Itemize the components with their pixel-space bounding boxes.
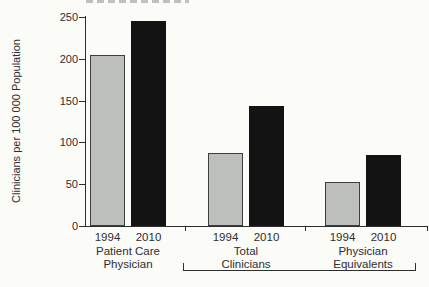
x-axis-line — [85, 226, 428, 227]
x-axis-separator-tick-2 — [427, 226, 428, 231]
bar-2010-total-clinicians — [249, 106, 284, 226]
y-axis-tick-label-50: 50 — [42, 178, 78, 190]
x-tick-label-1994-total-clinicians: 1994 — [206, 231, 246, 244]
category-label-line: Physician — [308, 245, 418, 258]
category-label-line: Physician — [73, 258, 183, 271]
category-label-patient-care-physician: Patient CarePhysician — [73, 245, 183, 271]
y-axis-title: Clinicians per 100 000 Population — [10, 21, 22, 221]
x-tick-label-1994-patient-care-physician: 1994 — [88, 231, 128, 244]
clinician-supply-bar-chart: Clinicians per 100 000 Population 050100… — [0, 0, 429, 287]
x-tick-label-2010-patient-care-physician: 2010 — [129, 231, 169, 244]
x-tick-label-1994-physician-equivalents: 1994 — [323, 231, 363, 244]
y-axis-tick-200 — [79, 59, 85, 60]
y-axis-tick-100 — [79, 142, 85, 143]
bar-1994-physician-equivalents — [325, 182, 360, 226]
category-label-line: Patient Care — [73, 245, 183, 258]
bar-2010-physician-equivalents — [366, 155, 401, 226]
category-label-line: Clinicians — [191, 258, 301, 271]
y-axis-tick-label-0: 0 — [42, 220, 78, 232]
x-axis-separator-tick-0 — [185, 226, 186, 231]
category-label-total-clinicians: TotalClinicians — [191, 245, 301, 271]
y-axis-line — [85, 16, 86, 227]
category-label-physician-equivalents: PhysicianEquivalents — [308, 245, 418, 271]
category-label-line: Total — [191, 245, 301, 258]
y-axis-tick-250 — [79, 17, 85, 18]
x-tick-label-2010-total-clinicians: 2010 — [247, 231, 287, 244]
y-axis-tick-label-150: 150 — [42, 95, 78, 107]
category-label-line: Equivalents — [308, 258, 418, 271]
y-axis-tick-label-100: 100 — [42, 136, 78, 148]
x-axis-separator-tick-1 — [305, 226, 306, 231]
y-axis-tick-label-250: 250 — [42, 11, 78, 23]
bar-1994-patient-care-physician — [90, 55, 125, 226]
bar-2010-patient-care-physician — [131, 21, 166, 226]
x-tick-label-2010-physician-equivalents: 2010 — [364, 231, 404, 244]
bar-1994-total-clinicians — [208, 153, 243, 226]
y-axis-tick-150 — [79, 101, 85, 102]
y-axis-tick-0 — [79, 226, 85, 227]
y-axis-tick-50 — [79, 184, 85, 185]
cropped-title-sliver — [86, 0, 189, 3]
y-axis-tick-label-200: 200 — [42, 53, 78, 65]
